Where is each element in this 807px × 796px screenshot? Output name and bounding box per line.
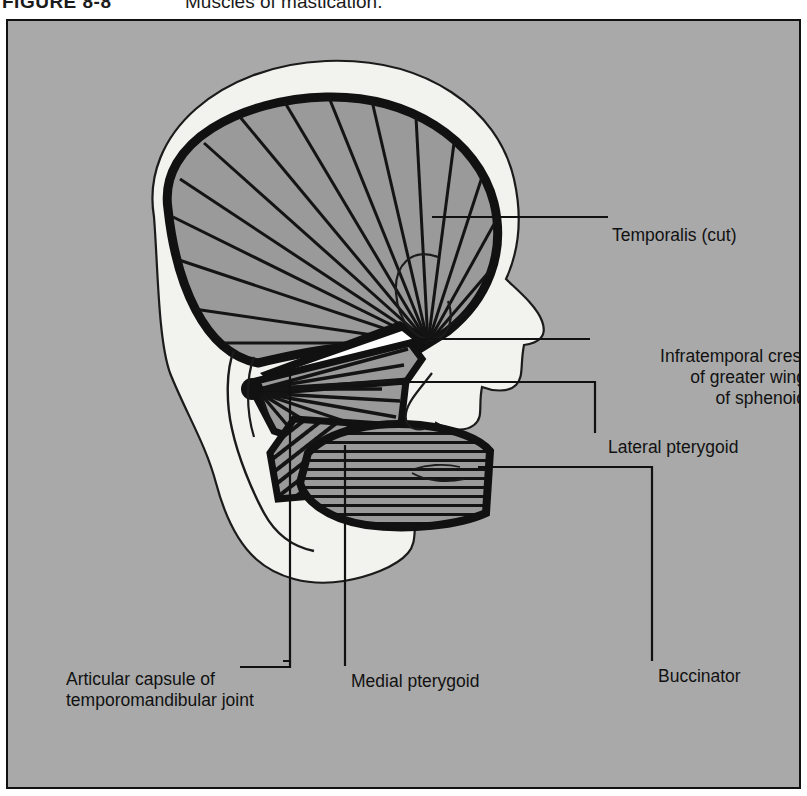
label-infratemporal-crest: Infratemporal crest of greater wing of s…	[594, 346, 801, 409]
figure-root: FIGURE 8-8 Muscles of mastication.	[0, 0, 807, 796]
label-buccinator: Buccinator	[658, 666, 741, 687]
buccinator-muscle	[300, 424, 490, 527]
figure-number: FIGURE 8-8	[2, 0, 112, 13]
label-temporalis: Temporalis (cut)	[612, 225, 736, 246]
label-medial-pterygoid: Medial pterygoid	[351, 671, 479, 692]
label-articular-capsule: Articular capsule of temporomandibular j…	[66, 669, 254, 711]
figure-title: Muscles of mastication.	[185, 0, 382, 13]
figure-caption: FIGURE 8-8 Muscles of mastication.	[0, 0, 807, 17]
illustration-plate: Temporalis (cut) Infratemporal crest of …	[6, 19, 801, 789]
leader-articular-capsule-elbow	[240, 661, 290, 667]
label-lateral-pterygoid: Lateral pterygoid	[608, 437, 738, 458]
leader-buccinator	[478, 467, 652, 661]
